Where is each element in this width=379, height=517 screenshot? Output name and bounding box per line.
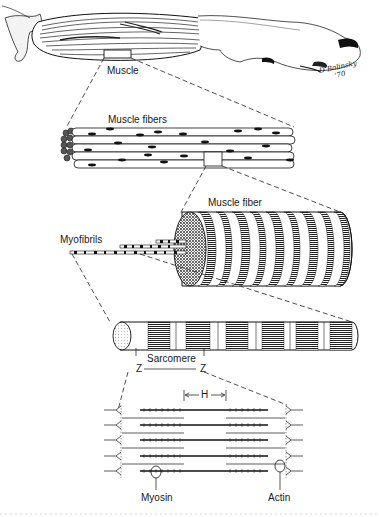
label-muscle-fiber: Muscle fiber bbox=[208, 198, 262, 208]
label-sarcomere: Sarcomere bbox=[147, 354, 196, 364]
label-h-zone: H bbox=[201, 390, 208, 400]
signature-year: '70 bbox=[334, 69, 346, 79]
muscle-sample-box bbox=[104, 50, 131, 58]
label-myofibrils: Myofibrils bbox=[60, 235, 102, 245]
projection-lines-1 bbox=[66, 58, 294, 128]
sarcomere-filaments bbox=[104, 390, 303, 490]
label-z-right: Z bbox=[200, 364, 206, 374]
label-actin: Actin bbox=[268, 493, 290, 503]
label-myosin: Myosin bbox=[141, 493, 173, 503]
label-z-left: Z bbox=[136, 364, 142, 374]
actin-callout-circle bbox=[275, 460, 285, 472]
fiber-sample-box bbox=[204, 152, 222, 166]
myosin-filaments bbox=[140, 410, 268, 471]
label-muscle: Muscle bbox=[107, 66, 139, 76]
muscle-fibers-bundle bbox=[61, 128, 295, 168]
leg-illustration bbox=[2, 6, 360, 72]
muscle-fiber-cylinder bbox=[174, 212, 352, 286]
muscle-hierarchy-figure: Muscle Muscle fibers Muscle fiber Myofib… bbox=[0, 0, 379, 517]
label-muscle-fibers: Muscle fibers bbox=[108, 115, 167, 125]
